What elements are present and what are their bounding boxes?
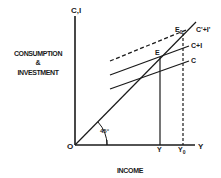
y-axis-title-line2: & [35,59,40,66]
x-axis-end-label: Y [198,142,204,151]
c-line [110,61,189,89]
c-plus-i-label: C+I [191,42,202,49]
origin-label: O [67,142,73,151]
y-axis-top-label: C,I [71,6,81,15]
angle-label: 45° [100,128,110,134]
c-prime-i-prime-label: C'+I' [196,26,211,33]
point-e0-label: E0 [175,26,183,35]
y-axis-title-line3: INVESTMENT [17,69,59,76]
point-e-label: E [155,49,160,56]
c-label: C [191,57,196,64]
c-prime-i-prime-line [110,30,186,61]
x-tick-y-label: Y [157,146,162,153]
keynesian-cross-diagram: C,I CONSUMPTION & INVESTMENT 45° O Y Y Y… [0,0,221,178]
c-plus-i-line [110,46,189,75]
y-axis-title-line1: CONSUMPTION [14,50,62,57]
x-tick-y0-label: Y0 [178,146,186,155]
forty-five-degree-line [75,22,196,145]
x-axis-title: INCOME [117,167,144,174]
